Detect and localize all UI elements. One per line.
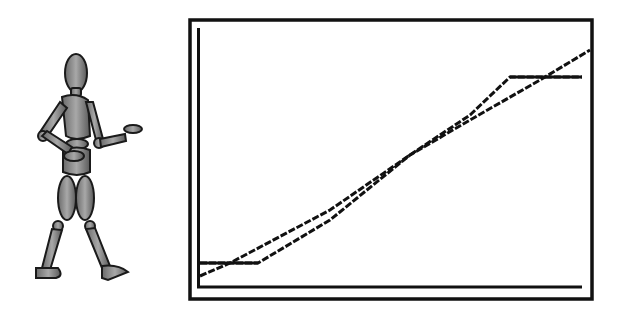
line-graph: [0, 0, 621, 318]
series-line-a: [200, 77, 582, 276]
graph-frame: [190, 20, 592, 299]
series-line-b: [200, 50, 590, 263]
